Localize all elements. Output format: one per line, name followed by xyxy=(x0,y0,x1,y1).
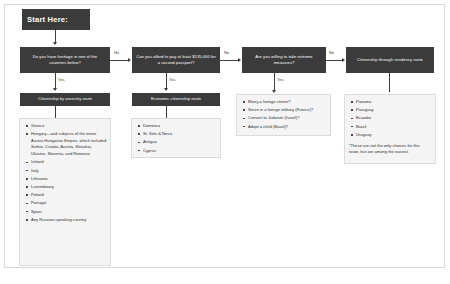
list-item: Convert to Judaism (Israel)? xyxy=(248,115,327,122)
question-node-extreme: Are you willing to take extreme measures… xyxy=(242,47,326,73)
list-item: Uruguay xyxy=(356,132,432,139)
list-residency-items: Panama Paraguay Ecuador Brazil Uruguay xyxy=(348,99,432,139)
list-economic-items: Dominica St. Kitts & Nevis Antigua Cypru… xyxy=(135,123,217,154)
edge-label-no-3: No xyxy=(329,50,334,55)
edge-label-yes-2: Yes xyxy=(169,77,175,82)
list-economic-countries: Dominica St. Kitts & Nevis Antigua Cypru… xyxy=(131,118,221,158)
arrowhead-q1-yes xyxy=(53,88,57,91)
route-node-economic: Economic citizenship route xyxy=(132,93,220,106)
list-item: Luxembourg xyxy=(31,184,107,191)
edge-label-no-2: No xyxy=(224,50,229,55)
list-item: Serve in a foreign military (France)? xyxy=(248,107,327,114)
list-item: Italy xyxy=(31,168,107,175)
list-item: Ecuador xyxy=(356,115,432,122)
arrowhead-q3-to-q4 xyxy=(342,58,345,62)
connector-q1-to-q2 xyxy=(110,60,130,61)
list-item: Antigua xyxy=(143,139,217,146)
list-item: Portugal xyxy=(31,200,107,207)
route-node-ancestry: Citizenship by ancestry route xyxy=(20,93,110,106)
list-item: Cyprus xyxy=(143,148,217,155)
list-item: Dominica xyxy=(143,123,217,130)
list-residency-countries: Panama Paraguay Ecuador Brazil Uruguay *… xyxy=(344,94,436,164)
question-node-afford: Can you afford to pay at least $135,000 … xyxy=(132,47,220,73)
question-node-heritage: Do you have heritage in one of the count… xyxy=(20,47,110,73)
list-item: Poland xyxy=(31,192,107,199)
list-item: Greece xyxy=(31,123,107,130)
residency-footnote: *These are not the only choices for this… xyxy=(348,143,432,156)
arrowhead-q2-yes xyxy=(164,88,168,91)
list-item: Hungary—and subjects of the entire Austr… xyxy=(31,131,107,158)
list-item: Spain xyxy=(31,209,107,216)
arrowhead-q3-yes xyxy=(272,90,276,93)
list-item: Any Russian-speaking country xyxy=(31,217,107,224)
list-item: Brazil xyxy=(356,124,432,131)
list-item: Marry a foreign citizen? xyxy=(248,99,327,106)
list-extreme-items: Marry a foreign citizen? Serve in a fore… xyxy=(240,99,327,130)
list-item: Lithuania xyxy=(31,176,107,183)
connector-residency-to-list xyxy=(389,73,390,92)
list-item: St. Kitts & Nevis xyxy=(143,131,217,138)
list-ancestry-items: Greece Hungary—and subjects of the entir… xyxy=(23,123,107,223)
edge-label-no-1: No xyxy=(114,50,119,55)
route-node-residency: Citizenship through residency route xyxy=(346,47,434,73)
arrowhead-q1-to-q2 xyxy=(128,58,131,62)
edge-label-yes-1: Yes xyxy=(58,77,64,82)
list-extreme-measures: Marry a foreign citizen? Serve in a fore… xyxy=(236,94,331,136)
edge-label-yes-3: Yes xyxy=(277,77,283,82)
list-item: Paraguay xyxy=(356,107,432,114)
arrowhead-q2-to-q3 xyxy=(238,58,241,62)
arrowhead-start-to-q1 xyxy=(53,42,57,45)
list-item: Adopt a child (Brazil)? xyxy=(248,124,327,131)
list-item: Ireland xyxy=(31,159,107,166)
list-ancestry-countries: Greece Hungary—and subjects of the entir… xyxy=(19,118,111,266)
connector-q2-to-q3 xyxy=(220,60,240,61)
flowchart-canvas: Start Here: Do you have heritage in one … xyxy=(0,0,450,284)
start-node: Start Here: xyxy=(22,9,90,30)
list-item: Panama xyxy=(356,99,432,106)
